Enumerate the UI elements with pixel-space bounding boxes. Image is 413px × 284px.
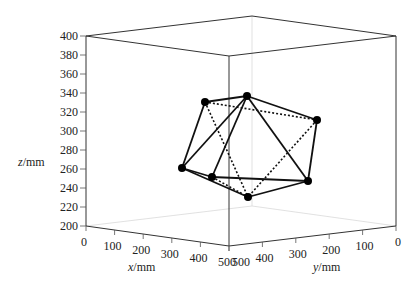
- z-axis-ticks: 400380360340320300280260240220200: [60, 29, 86, 233]
- z-tick-label: 300: [60, 124, 78, 138]
- vertex-marker: [201, 98, 209, 106]
- x-tick-label: 300: [161, 247, 179, 261]
- vertex-marker: [244, 193, 252, 201]
- y-tick-label: 200: [322, 243, 340, 257]
- x-tick-label: 400: [189, 251, 207, 265]
- z-tick-label: 360: [60, 67, 78, 81]
- z-tick-label: 200: [60, 219, 78, 233]
- vertex-marker: [304, 177, 312, 185]
- z-tick-label: 380: [60, 48, 78, 62]
- z-axis-label: z/mm: [17, 155, 45, 169]
- y-tick-label: 100: [356, 239, 374, 253]
- y-tick-label: 400: [255, 251, 273, 265]
- x-axis-ticks: 0100200300400500: [81, 226, 236, 269]
- vertex-marker: [178, 164, 186, 172]
- x-axis-label: x/mm: [127, 260, 156, 274]
- z-tick-label: 340: [60, 86, 78, 100]
- y-tick-label: 0: [395, 235, 401, 249]
- 3d-chart: 400380360340320300280260240220200 010020…: [0, 0, 413, 284]
- y-tick-label: 500: [232, 255, 250, 269]
- z-tick-label: 280: [60, 143, 78, 157]
- z-tick-label: 220: [60, 200, 78, 214]
- y-axis-label: y/mm: [312, 260, 341, 274]
- bounding-box: [86, 16, 396, 246]
- z-tick-label: 400: [60, 29, 78, 43]
- x-tick-label: 100: [104, 239, 122, 253]
- vertex-marker: [243, 92, 251, 100]
- y-tick-label: 300: [289, 247, 307, 261]
- x-tick-label: 0: [81, 235, 87, 249]
- z-tick-label: 240: [60, 181, 78, 195]
- x-tick-label: 200: [132, 243, 150, 257]
- z-tick-label: 260: [60, 162, 78, 176]
- vertex-marker: [313, 116, 321, 124]
- visible-edges: [182, 96, 317, 197]
- vertex-marker: [208, 173, 216, 181]
- z-tick-label: 320: [60, 105, 78, 119]
